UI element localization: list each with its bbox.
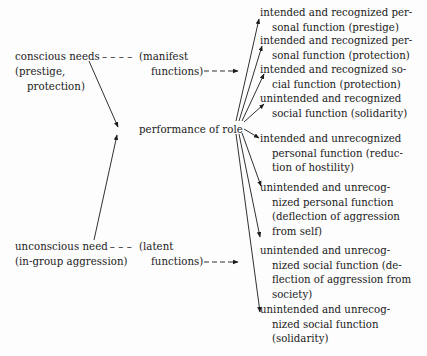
manifest-functions-label: (manifest (139, 50, 188, 65)
function-item-8: unintended and unrecog- nized social fun… (260, 303, 390, 347)
conscious-needs-label: conscious needs– – – – (15, 50, 132, 65)
latent-functions-label: (latent (139, 240, 173, 255)
function-item-2: intended and recognized per- sonal funct… (260, 34, 412, 63)
arrow-conscious-to-role (89, 61, 118, 127)
function-item-7: unintended and unrecog- nized social fun… (260, 244, 411, 302)
functions-diagram: conscious needs– – – – (prestige, protec… (0, 0, 427, 356)
function-item-6: unintended and unrecog- nized personal f… (260, 181, 400, 239)
function-item-4: unintended and recognized social functio… (260, 92, 407, 121)
unconscious-need-detail: (in-group aggression) (15, 255, 128, 270)
conscious-needs-detail-2: protection) (27, 80, 85, 95)
function-item-1: intended and recognized per- sonal funct… (260, 6, 412, 35)
arrow-unconscious-to-role (94, 135, 117, 240)
manifest-functions-label-2: functions) (151, 65, 203, 80)
function-item-3: intended and recognized so- cial functio… (260, 63, 406, 92)
performance-of-role: performance of role (139, 123, 243, 138)
unconscious-need-label: unconscious need– – – (15, 240, 132, 255)
function-item-5: intended and unrecognized personal funct… (260, 132, 403, 176)
conscious-needs-detail: (prestige, (15, 65, 65, 80)
latent-functions-label-2: functions) (151, 255, 203, 270)
